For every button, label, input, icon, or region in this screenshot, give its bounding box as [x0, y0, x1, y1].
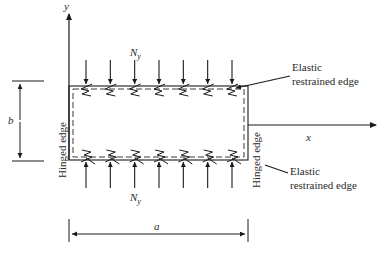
bottom-edge-label-line1: Elastic: [290, 164, 357, 178]
dimension-a-label: a: [154, 220, 160, 232]
plate-dashed-boundary: [73, 89, 244, 157]
top-load-arrows: [86, 60, 232, 84]
spring-tail: [208, 158, 217, 164]
spring-tail: [159, 158, 168, 164]
top-edge-label-line1: Elastic: [292, 60, 359, 74]
load-label-bottom: Ny: [130, 191, 141, 208]
bottom-edge-label-line2: restrained edge: [290, 178, 357, 192]
spring-tail: [86, 158, 95, 164]
load-label-top-sub: y: [137, 52, 141, 61]
dimension-b-label: b: [8, 114, 14, 126]
dimension-b: [12, 81, 44, 161]
bottom-edge-label: Elastic restrained edge: [290, 164, 357, 192]
left-edge-label: Hinged edge: [56, 122, 68, 178]
top-edge-label: Elastic restrained edge: [292, 60, 359, 88]
spring-tail: [232, 158, 241, 164]
bottom-load-arrows: [86, 162, 232, 188]
spring-tail: [110, 158, 119, 164]
load-label-top: Ny: [130, 46, 141, 63]
spring-tail: [183, 158, 192, 164]
plate-outline: [69, 86, 248, 160]
spring-tail: [135, 158, 144, 164]
y-axis-label: y: [64, 0, 69, 12]
leader-top-elastic: [236, 76, 290, 88]
top-edge-label-line2: restrained edge: [292, 74, 359, 88]
right-edge-label: Hinged edge: [250, 132, 262, 188]
load-label-bottom-sub: y: [137, 197, 141, 206]
leader-bottom-elastic: [265, 165, 288, 173]
x-axis-label: x: [306, 131, 311, 143]
